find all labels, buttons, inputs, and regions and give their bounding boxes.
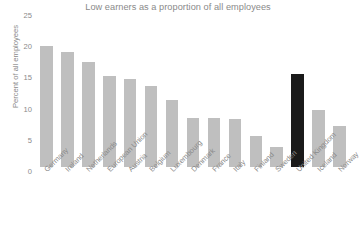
x-axis-tick-labels: GermanyIrelandNetherlandsEuropean UnionA… [36, 168, 350, 241]
bar-slot [224, 22, 245, 167]
bar-slot [36, 22, 57, 167]
y-tick-label-15: 15 [14, 74, 32, 82]
y-tick-label-10: 10 [14, 106, 32, 114]
y-tick-label-5: 5 [14, 137, 32, 145]
y-tick-label-20: 20 [14, 43, 32, 51]
bar-germany[interactable] [40, 46, 53, 167]
bar-slot [287, 22, 308, 167]
bar-slot [329, 22, 350, 167]
y-tick-label-25: 25 [14, 12, 32, 20]
bar-slot [141, 22, 162, 167]
bar-slot [78, 22, 99, 167]
bar-slot [162, 22, 183, 167]
bar-slot [245, 22, 266, 167]
bar-slot [203, 22, 224, 167]
chart-title: Low earners as a proportion of all emplo… [0, 2, 356, 12]
bar-netherlands[interactable] [82, 62, 95, 167]
y-tick-label-0: 0 [14, 168, 32, 176]
bar-slot [57, 22, 78, 167]
bar-slot [266, 22, 287, 167]
y-axis-tick-labels: 0510152025 [14, 16, 32, 172]
